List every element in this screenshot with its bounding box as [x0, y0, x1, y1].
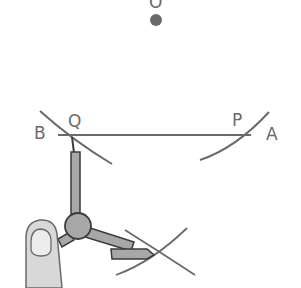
construction-diagram: O B Q P A: [0, 0, 301, 288]
label-b: B: [34, 123, 46, 143]
label-p: P: [232, 110, 242, 130]
point-o: [150, 14, 162, 26]
fingernail: [31, 229, 51, 256]
label-a: A: [266, 124, 278, 144]
label-q: Q: [68, 111, 81, 131]
compass-pencil: [111, 249, 154, 259]
label-o: O: [149, 0, 162, 12]
finger: [26, 220, 62, 288]
compass-hinge: [65, 213, 91, 239]
compass: [58, 137, 154, 259]
compass-arm-vertical: [71, 152, 80, 217]
